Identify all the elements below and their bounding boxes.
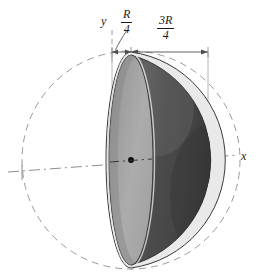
dimension-label-3r-over-4-numerator: 3R xyxy=(157,14,174,27)
dimension-arrow-left-a xyxy=(112,50,118,55)
figure-canvas xyxy=(0,0,261,278)
dimension-label-r-over-4-numerator: R xyxy=(121,8,132,21)
dimension-arrow-right-b xyxy=(201,50,208,55)
dimension-label-r-over-4-denominator: 4 xyxy=(121,23,132,36)
dimension-label-r-over-4: R 4 xyxy=(121,8,132,35)
x-axis-label: x xyxy=(241,150,246,162)
hemisphere-centroid-figure: y x R 4 3R 4 xyxy=(0,0,261,278)
y-axis-label: y xyxy=(101,15,106,27)
dimension-label-3r-over-4: 3R 4 xyxy=(157,14,174,41)
dimension-label-3r-over-4-denominator: 4 xyxy=(157,29,174,42)
